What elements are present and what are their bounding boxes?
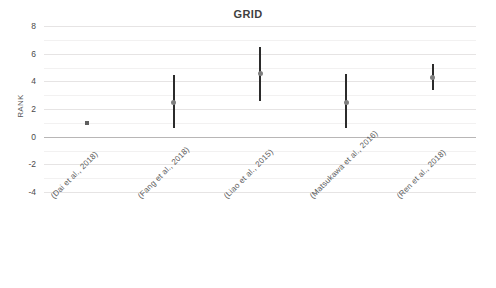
- y-axis-title: RANK: [16, 86, 25, 126]
- gridline: [44, 151, 476, 152]
- gridline: [44, 109, 476, 110]
- data-point-marker[interactable]: [258, 71, 263, 76]
- gridline: [44, 26, 476, 27]
- data-point-marker[interactable]: [85, 121, 89, 125]
- y-axis-tick-label: 6: [8, 49, 36, 59]
- chart-container: GRID RANK 86420-2-4 (Dai et al., 2018)(F…: [0, 0, 496, 288]
- y-axis-tick-label: 0: [8, 132, 36, 142]
- gridline: [44, 40, 476, 41]
- chart-title: GRID: [0, 8, 496, 20]
- gridline: [44, 192, 476, 193]
- y-axis-tick-label: -2: [8, 159, 36, 169]
- gridline: [44, 123, 476, 124]
- y-axis-tick-label: 8: [8, 21, 36, 31]
- data-point-marker[interactable]: [171, 100, 176, 105]
- x-axis-tick-labels: (Dai et al., 2018)(Fang et al., 2018)(Li…: [44, 194, 476, 288]
- y-axis-tick-label: 4: [8, 76, 36, 86]
- data-point-marker[interactable]: [430, 75, 435, 80]
- zero-gridline: [44, 137, 476, 138]
- data-point-marker[interactable]: [344, 100, 349, 105]
- y-axis-tick-label: -4: [8, 187, 36, 197]
